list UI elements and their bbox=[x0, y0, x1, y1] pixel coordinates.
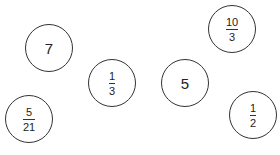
fraction: 10 3 bbox=[226, 16, 238, 43]
denominator: 3 bbox=[229, 31, 235, 43]
fraction: 1 2 bbox=[250, 102, 256, 129]
number-circle-1-half: 1 2 bbox=[229, 91, 277, 139]
number-circle-7: 7 bbox=[25, 24, 73, 72]
fraction-bar bbox=[109, 83, 115, 84]
numerator: 1 bbox=[109, 70, 115, 82]
number-circle-5: 5 bbox=[161, 59, 209, 107]
whole-number: 7 bbox=[45, 40, 53, 57]
fraction: 5 21 bbox=[23, 106, 35, 133]
number-circle-10-thirds: 10 3 bbox=[208, 5, 256, 53]
numerator: 10 bbox=[226, 16, 238, 28]
numerator: 5 bbox=[26, 106, 32, 118]
whole-number: 5 bbox=[181, 75, 189, 92]
fraction-bar bbox=[23, 119, 35, 120]
denominator: 3 bbox=[109, 85, 115, 97]
denominator: 2 bbox=[250, 117, 256, 129]
denominator: 21 bbox=[23, 121, 35, 133]
number-circle-1-third: 1 3 bbox=[88, 59, 136, 107]
fraction-bar bbox=[226, 29, 238, 30]
number-circle-5-21sts: 5 21 bbox=[5, 95, 53, 143]
numerator: 1 bbox=[250, 102, 256, 114]
fraction-bar bbox=[250, 115, 256, 116]
fraction: 1 3 bbox=[109, 70, 115, 97]
